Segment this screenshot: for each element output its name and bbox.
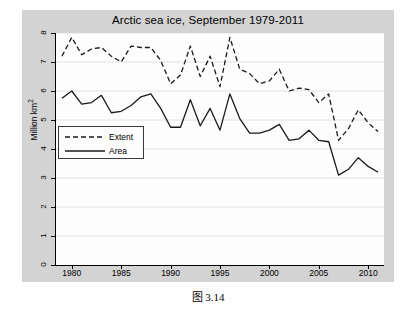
- y-axis-label-superscript: 2: [27, 99, 34, 103]
- legend-item-extent: Extent: [59, 130, 145, 145]
- x-tick-label: 2000: [249, 268, 289, 278]
- figure-root: Arctic sea ice, September 1979-2011 Mill…: [0, 0, 416, 318]
- legend-label: Area: [109, 146, 127, 156]
- legend-swatch-dashed: [65, 130, 105, 144]
- y-tick-label: 5: [39, 113, 48, 127]
- x-tick-label: 1985: [101, 268, 141, 278]
- y-axis-label-text: Million km: [29, 103, 39, 141]
- x-tick-label: 1995: [200, 268, 240, 278]
- y-tick-label: 0: [39, 258, 48, 272]
- x-tick-label: 1990: [151, 268, 191, 278]
- y-tick-mark: [51, 62, 55, 63]
- y-tick-label: 3: [39, 171, 48, 185]
- y-tick-mark: [51, 178, 55, 179]
- y-tick-label: 4: [39, 142, 48, 156]
- y-tick-mark: [51, 207, 55, 208]
- y-axis-label: Million km2: [27, 70, 39, 170]
- y-tick-mark: [51, 265, 55, 266]
- chart-legend: ExtentArea: [58, 126, 144, 159]
- y-tick-mark: [51, 149, 55, 150]
- legend-label: Extent: [109, 132, 133, 142]
- y-tick-label: 8: [39, 26, 48, 40]
- y-tick-mark: [51, 236, 55, 237]
- y-tick-mark: [51, 33, 55, 34]
- chart-panel: Arctic sea ice, September 1979-2011 Mill…: [22, 10, 394, 282]
- chart-title: Arctic sea ice, September 1979-2011: [22, 14, 394, 26]
- x-tick-label: 2010: [348, 268, 388, 278]
- figure-caption: 图 3.14: [0, 288, 416, 304]
- y-tick-label: 6: [39, 84, 48, 98]
- y-tick-label: 2: [39, 200, 48, 214]
- y-tick-mark: [51, 91, 55, 92]
- legend-swatch-solid: [65, 144, 105, 158]
- y-tick-label: 1: [39, 229, 48, 243]
- series-line-extent: [62, 37, 378, 140]
- y-tick-mark: [51, 120, 55, 121]
- y-tick-label: 7: [39, 55, 48, 69]
- x-tick-label: 1980: [52, 268, 92, 278]
- legend-item-area: Area: [59, 144, 145, 159]
- x-tick-label: 2005: [299, 268, 339, 278]
